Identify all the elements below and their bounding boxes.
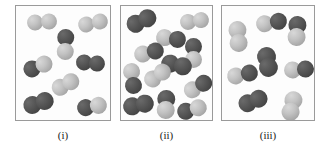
- molecule: [77, 12, 110, 34]
- panel-contents: [222, 6, 314, 120]
- molecule: [121, 93, 155, 117]
- molecule: [179, 11, 210, 31]
- panel-caption-1: (i): [15, 128, 111, 142]
- molecule-panel-1: [15, 5, 111, 121]
- molecule: [26, 13, 57, 31]
- molecule: [236, 87, 271, 115]
- molecule: [122, 62, 143, 95]
- molecule: [228, 20, 249, 52]
- molecule: [75, 54, 105, 72]
- panel-caption-3: (iii): [221, 128, 315, 142]
- atom-sphere: [257, 56, 279, 78]
- atom-sphere: [287, 27, 306, 46]
- molecule: [255, 11, 288, 33]
- molecule: [56, 29, 74, 61]
- molecule: [280, 89, 305, 120]
- molecule: [76, 96, 108, 118]
- molecule: [287, 15, 307, 46]
- panel-contents: [121, 6, 212, 120]
- atom-sphere: [40, 13, 57, 30]
- panel-contents: [16, 6, 110, 120]
- molecule-panel-2: [120, 5, 213, 121]
- atom-sphere: [124, 76, 143, 95]
- atom-sphere: [296, 60, 314, 78]
- molecule: [283, 60, 314, 79]
- molecule: [21, 90, 56, 117]
- panel-caption-2: (ii): [120, 128, 213, 142]
- atom-sphere: [88, 55, 105, 72]
- atom-sphere: [156, 101, 175, 120]
- figure-root: (i)(ii)(iii): [0, 0, 328, 148]
- molecule-panel-3: [221, 5, 315, 121]
- panel-group: [0, 0, 328, 148]
- molecule: [256, 46, 280, 79]
- atom-sphere: [56, 43, 74, 61]
- atom-sphere: [229, 33, 249, 53]
- molecule: [124, 6, 160, 35]
- molecule: [49, 70, 83, 99]
- molecule: [156, 90, 175, 120]
- molecule: [226, 63, 260, 86]
- molecule: [21, 53, 55, 80]
- molecule: [175, 97, 209, 120]
